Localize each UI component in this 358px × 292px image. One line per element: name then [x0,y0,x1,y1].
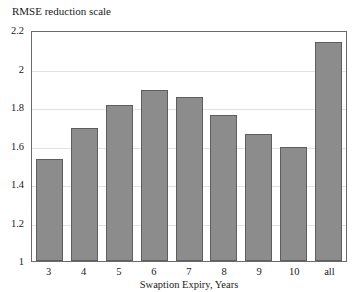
x-tick-label: all [312,265,347,278]
bar[interactable] [141,90,168,261]
bar-slot [276,32,311,261]
bar[interactable] [106,105,133,261]
y-tick-label: 1 [19,257,24,267]
plot-frame [31,31,347,262]
y-tick-label: 1.2 [11,219,24,229]
y-tick-label: 1.6 [11,142,24,152]
bar-slot [206,32,241,261]
chart-figure: RMSE reduction scale 11.21.41.61.822.2 3… [0,0,358,292]
x-axis-title: Swaption Expiry, Years [31,279,347,291]
plot-area [32,32,346,261]
bar-slot [241,32,276,261]
bar[interactable] [280,147,307,261]
bar[interactable] [315,42,342,261]
bar-slot [32,32,67,261]
bar[interactable] [245,134,272,261]
y-tick-label: 1.4 [11,180,24,190]
bar-slot [311,32,346,261]
x-tick-label: 10 [277,265,312,278]
bar-slot [102,32,137,261]
bar[interactable] [210,115,237,261]
x-tick-label: 9 [242,265,277,278]
y-tick-label: 2.2 [11,26,24,36]
bar[interactable] [71,128,98,261]
bar[interactable] [36,159,63,261]
bar[interactable] [176,97,203,261]
x-tick-label: 3 [31,265,66,278]
x-tick-label: 8 [207,265,242,278]
y-axis: 11.21.41.61.822.2 [0,0,28,292]
x-tick-label: 7 [171,265,206,278]
bar-slot [137,32,172,261]
y-tick-label: 1.8 [11,103,24,113]
x-tick-label: 5 [101,265,136,278]
x-tick-label: 4 [66,265,101,278]
x-tick-label: 6 [136,265,171,278]
y-tick-label: 2 [19,65,24,75]
bar-slot [172,32,207,261]
bar-slot [67,32,102,261]
x-axis: 345678910all [31,265,347,278]
